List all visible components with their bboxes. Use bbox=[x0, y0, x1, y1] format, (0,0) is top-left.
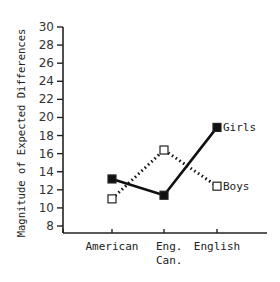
y-tick-label: 28 bbox=[39, 38, 54, 52]
y-tick-label: 16 bbox=[39, 147, 54, 161]
data-point-marker bbox=[160, 146, 168, 154]
data-point-marker bbox=[213, 182, 221, 190]
y-tick-label: 8 bbox=[46, 219, 54, 233]
series-label: Boys bbox=[223, 180, 250, 193]
series-line bbox=[112, 127, 217, 195]
x-category-label: American bbox=[86, 240, 139, 253]
x-axis: AmericanEng.Can.English bbox=[63, 229, 267, 267]
x-category-label: Can. bbox=[156, 254, 183, 267]
y-tick-label: 10 bbox=[39, 201, 54, 215]
y-axis: 81012141618202224262830 bbox=[39, 20, 63, 233]
data-point-marker bbox=[108, 175, 116, 183]
y-tick-label: 18 bbox=[39, 129, 54, 143]
x-category-label: English bbox=[194, 240, 240, 253]
line-chart: 81012141618202224262830 AmericanEng.Can.… bbox=[0, 0, 280, 282]
y-tick-label: 12 bbox=[39, 183, 54, 197]
y-tick-label: 26 bbox=[39, 56, 54, 70]
data-point-marker bbox=[160, 191, 168, 199]
y-tick-label: 30 bbox=[39, 20, 54, 34]
y-tick-label: 20 bbox=[39, 110, 54, 124]
data-point-marker bbox=[213, 123, 221, 131]
y-axis-title: Magnitude of Expected Differences bbox=[15, 29, 27, 238]
y-tick-label: 14 bbox=[39, 165, 54, 179]
x-category-label: Eng. bbox=[156, 240, 183, 253]
y-tick-label: 24 bbox=[39, 74, 54, 88]
data-point-marker bbox=[108, 195, 116, 203]
series-label: Girls bbox=[223, 121, 256, 134]
series-layer: GirlsBoys bbox=[108, 121, 256, 202]
y-tick-label: 22 bbox=[39, 92, 54, 106]
